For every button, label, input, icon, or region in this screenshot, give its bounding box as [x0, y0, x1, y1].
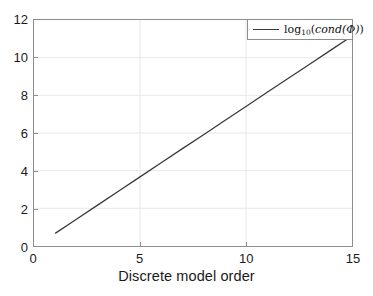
legend-paren-close: )	[360, 23, 364, 36]
y-tick-mark	[33, 57, 38, 58]
x-axis-title: Discrete model order	[0, 268, 373, 284]
legend-entry-label: log10(cond(Φ))	[284, 24, 364, 35]
x-tick-label: 5	[136, 252, 143, 265]
y-tick-label: 4	[2, 165, 28, 178]
y-axis-tick-labels: 024681012	[0, 19, 28, 247]
y-tick-label: 2	[2, 203, 28, 216]
legend-cond-func: cond	[315, 23, 342, 36]
y-tick-mark	[33, 133, 38, 134]
legend-box: log10(cond(Φ))	[247, 19, 353, 40]
plot-area	[33, 19, 353, 247]
figure-canvas: 024681012 051015 Discrete model order lo…	[0, 0, 373, 296]
legend-line-swatch	[253, 29, 279, 30]
x-tick-mark	[140, 242, 141, 247]
legend-log-subscript: 10	[301, 28, 311, 37]
y-tick-mark	[33, 171, 38, 172]
x-tick-label: 15	[346, 252, 360, 265]
y-tick-mark	[33, 95, 38, 96]
y-tick-label: 8	[2, 89, 28, 102]
y-tick-mark	[33, 209, 38, 210]
y-tick-label: 6	[2, 127, 28, 140]
data-series-line	[34, 20, 352, 246]
legend-phi-arg: (Φ)	[342, 23, 360, 36]
x-tick-label: 0	[29, 252, 36, 265]
y-tick-label: 12	[2, 13, 28, 26]
y-tick-label: 0	[2, 241, 28, 254]
legend-log-prefix: log	[284, 23, 301, 36]
x-tick-label: 10	[239, 252, 253, 265]
y-tick-label: 10	[2, 51, 28, 64]
x-tick-mark	[246, 242, 247, 247]
